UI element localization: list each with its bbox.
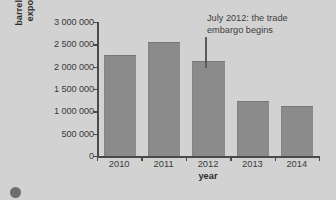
x-axis-tick-label: 2010 [109,159,130,169]
x-axis-tick-label: 2014 [286,159,307,169]
bar-2014 [281,106,313,156]
y-axis-tick-label: 3 000 000 [54,17,94,27]
bar-chart-figure: barrels of crude oil exported per day 05… [0,0,336,200]
y-axis-tick-label: 500 000 [61,129,94,139]
figure-caption [10,187,25,198]
x-axis-line [97,156,319,158]
y-axis-tick-labels: 0500 0001 000 0001 500 0002 000 0002 500… [32,16,94,156]
x-axis-title: year [97,171,319,181]
annotation-leader-line [205,37,207,68]
y-axis-title-line-1: barrels of crude oil [14,0,26,26]
y-axis-tick-label: 1 500 000 [54,84,94,94]
bar-2011 [148,42,180,156]
bar-2010 [104,55,136,157]
embargo-annotation-line-1: July 2012: the trade [207,13,331,25]
bar-2013 [237,101,269,156]
embargo-annotation-line-2: embargo begins [207,25,331,37]
x-axis-tick-mark [319,156,320,161]
y-axis-tick-label: 1 000 000 [54,106,94,116]
plot-area [97,22,319,156]
y-axis-tick-label: 2 500 000 [54,39,94,49]
figure-caption-strip [0,187,336,200]
x-axis-tick-label: 2012 [198,159,219,169]
x-axis-tick-label: 2011 [154,159,174,169]
bar-2012 [192,61,224,156]
embargo-annotation: July 2012: the trade embargo begins [207,13,331,36]
x-axis-tick-label: 2013 [242,159,263,169]
bar-series [97,22,319,156]
y-axis-tick-label: 2 000 000 [54,62,94,72]
info-badge-icon [10,187,21,198]
